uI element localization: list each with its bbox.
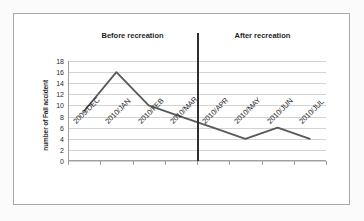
y-axis-tick-label: 8 <box>60 113 64 120</box>
x-axis-tick <box>229 161 230 165</box>
y-axis-tick-label: 14 <box>56 80 64 87</box>
annotation-after-recreation: After recreation <box>235 31 291 40</box>
y-axis-tick-label: 10 <box>56 102 64 109</box>
y-axis-title: number of Fall accident <box>42 80 49 151</box>
x-axis-tick <box>100 161 101 165</box>
x-axis-tick <box>133 161 134 165</box>
x-axis-tick <box>294 161 295 165</box>
y-axis-tick-label: 16 <box>56 69 64 76</box>
y-axis-tick-label: 0 <box>60 158 64 165</box>
x-axis-tick <box>197 161 198 165</box>
y-axis-tick-label: 12 <box>56 91 64 98</box>
plot-area: 024681012141618 <box>68 61 326 161</box>
x-axis-tick <box>326 161 327 165</box>
x-axis-tick <box>165 161 166 165</box>
annotation-before-recreation: Before recreation <box>102 31 164 40</box>
x-axis-tick <box>262 161 263 165</box>
y-axis-tick-label: 4 <box>60 135 64 142</box>
y-axis-tick-label: 6 <box>60 124 64 131</box>
x-axis-tick <box>68 161 69 165</box>
chart-frame: number of Fall accident Before recreatio… <box>13 13 350 205</box>
y-axis-tick-label: 18 <box>56 58 64 65</box>
y-axis-tick-label: 2 <box>60 146 64 153</box>
chart-figure: number of Fall accident Before recreatio… <box>0 0 364 221</box>
recreation-event-divider <box>197 33 199 161</box>
